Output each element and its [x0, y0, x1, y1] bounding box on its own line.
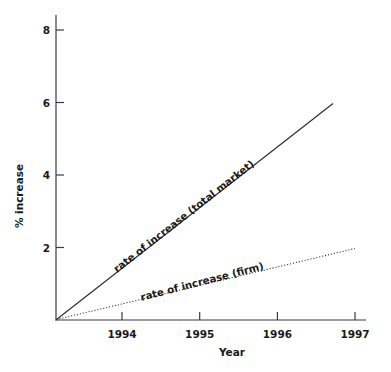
y-tick-label-4: 4 — [43, 169, 50, 181]
x-axis-title: Year — [218, 346, 246, 358]
y-tick-label-2: 2 — [43, 242, 50, 254]
x-tick-label-1995: 1995 — [185, 328, 214, 340]
series-label-total-market: rate of increase (total market) — [111, 158, 256, 274]
x-tick-label-1996: 1996 — [263, 328, 292, 340]
x-tick-label-1997: 1997 — [340, 328, 369, 340]
y-tick-label-6: 6 — [43, 97, 50, 109]
y-axis-title: % increase — [13, 164, 25, 228]
y-tick-label-8: 8 — [43, 24, 50, 36]
series-label-firm: rate of increase (firm) — [139, 260, 265, 302]
line-chart: 8 6 4 2 1994 1995 1996 1997 Year % incre… — [0, 0, 391, 372]
x-tick-label-1994: 1994 — [107, 328, 136, 340]
chart-canvas: 8 6 4 2 1994 1995 1996 1997 Year % incre… — [0, 0, 391, 372]
